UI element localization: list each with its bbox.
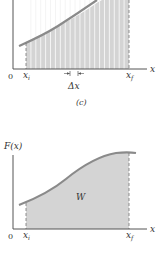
origin-label: 0 (8, 232, 13, 241)
work-integral-diagram: x 0 xi xf Δx (c) F(x) x 0 xi xf W (0, 0, 156, 257)
origin-label: 0 (8, 72, 13, 81)
xf-label: xf (126, 230, 135, 242)
panel-c: x 0 xi xf Δx (c) (8, 0, 155, 107)
xi-label: xi (23, 230, 30, 241)
panel-d: F(x) x 0 xi xf W (3, 141, 155, 242)
xi-label: xi (23, 70, 30, 81)
work-area (26, 153, 129, 229)
work-label: W (76, 192, 86, 202)
delta-x-marker (64, 71, 84, 76)
xf-label: xf (126, 70, 135, 82)
panel-caption: (c) (76, 98, 87, 107)
delta-x-label: Δx (67, 81, 80, 91)
y-axis-label: F(x) (3, 141, 23, 151)
x-axis-label: x (150, 64, 155, 74)
x-axis-label: x (150, 224, 155, 234)
